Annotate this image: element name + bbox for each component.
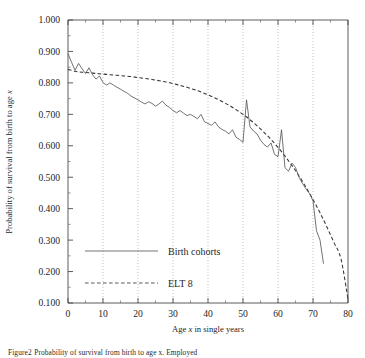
figure-caption: Figure2Probability of survival from birt…	[8, 348, 358, 358]
y-tick-label: 0.400	[38, 203, 60, 214]
x-tick-label: 30	[168, 308, 178, 319]
y-axis-title: Probability of survival from birth to ag…	[4, 90, 14, 234]
x-tick-label: 60	[273, 308, 283, 319]
x-tick-label: 80	[343, 308, 353, 319]
x-tick-label: 0	[66, 308, 71, 319]
caption-body: Probability of survival from birth to ag…	[34, 348, 197, 357]
y-tick-label: 0.100	[38, 297, 60, 308]
y-tick-label: 0.300	[38, 235, 60, 246]
x-axis-title: Age x in single years	[172, 324, 245, 334]
y-tick-label: 0.500	[38, 172, 60, 183]
y-tick-label: 1.000	[38, 14, 60, 25]
y-axis-tick-labels: 0.1000.2000.3000.4000.5000.6000.7000.800…	[38, 14, 60, 308]
y-tick-label: 0.200	[38, 266, 60, 277]
y-tick-label: 0.600	[38, 140, 60, 151]
x-tick-label: 20	[133, 308, 143, 319]
caption-prefix: Figure	[8, 348, 28, 357]
x-axis-tick-labels: 01020304050607080	[66, 308, 353, 319]
legend-label-elt-8: ELT 8	[168, 278, 193, 289]
x-tick-label: 70	[308, 308, 318, 319]
legend-label-birth-cohorts: Birth cohorts	[168, 246, 221, 257]
x-tick-label: 10	[98, 308, 108, 319]
y-tick-label: 0.900	[38, 46, 60, 57]
x-tick-label: 40	[203, 308, 213, 319]
figure-container: 0.1000.2000.3000.4000.5000.6000.7000.800…	[0, 0, 365, 358]
x-tick-label: 50	[238, 308, 248, 319]
survival-probability-chart: 0.1000.2000.3000.4000.5000.6000.7000.800…	[0, 0, 365, 358]
y-tick-label: 0.800	[38, 77, 60, 88]
y-tick-label: 0.700	[38, 109, 60, 120]
